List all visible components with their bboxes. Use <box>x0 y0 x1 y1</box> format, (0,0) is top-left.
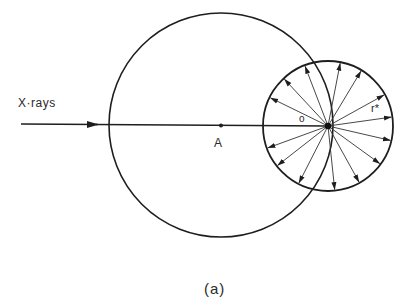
xrays-label: X·rays <box>18 97 56 109</box>
origin-dot <box>325 123 331 129</box>
radius-arrow <box>328 117 391 126</box>
point-a-label: A <box>214 137 222 149</box>
radius-arrow <box>278 126 328 165</box>
origin-label: o <box>299 114 305 124</box>
figure-caption: (a) <box>204 281 225 296</box>
radius-arrow <box>305 66 328 126</box>
point-a-dot <box>219 124 223 128</box>
radius-arrow <box>284 79 328 126</box>
radius-label: r* <box>370 103 380 114</box>
xray-beam-arrow <box>21 124 98 125</box>
ewald-sphere-figure <box>0 0 416 308</box>
diagram: X·rays A o r* (a) <box>0 0 416 308</box>
xray-beam-line <box>96 125 328 127</box>
